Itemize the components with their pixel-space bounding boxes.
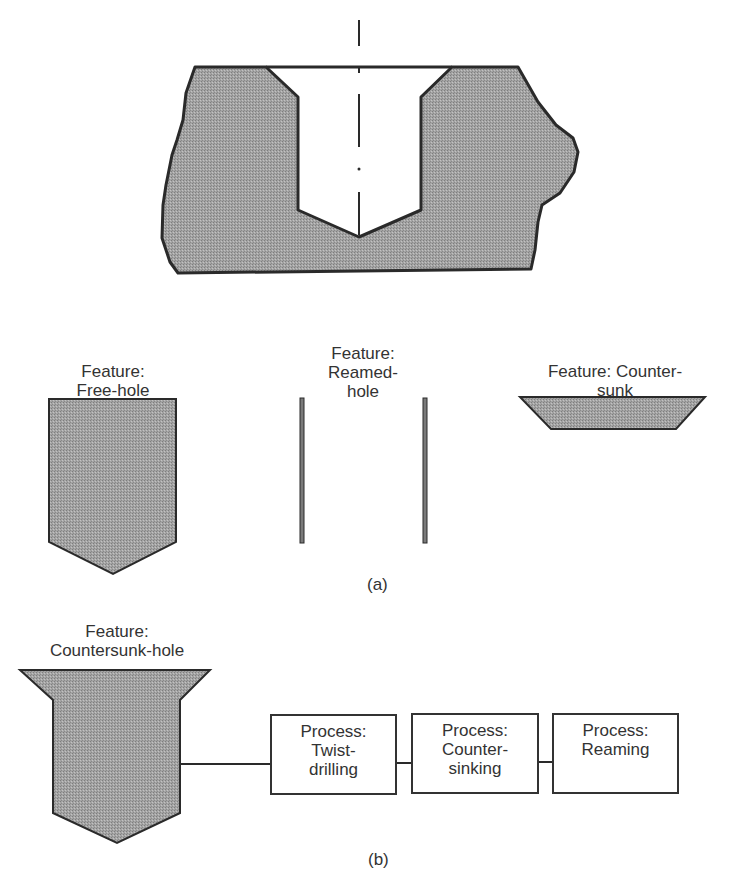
reamed-hole-wall-right — [423, 398, 427, 543]
countersunk-label: Feature: Counter- sunk — [520, 362, 710, 400]
reamed-hole-label: Feature: Reamed- hole — [290, 344, 436, 401]
countersunk-hole-label: Feature: Countersunk-hole — [20, 622, 214, 660]
process-box-twist-drilling: Process: Twist- drilling — [270, 714, 397, 795]
workpiece-section — [162, 20, 578, 273]
process-box-reaming: Process: Reaming — [552, 713, 679, 794]
reamed-hole-wall-left — [300, 398, 304, 543]
caption-b: (b) — [368, 850, 389, 870]
free-hole-label: Feature: Free-hole — [20, 362, 206, 400]
countersunk-shape — [520, 397, 705, 429]
countersunk-hole-shape — [20, 670, 210, 843]
caption-a: (a) — [367, 575, 388, 595]
process-box-countersinking: Process: Counter- sinking — [411, 713, 539, 794]
free-hole-shape — [49, 399, 176, 574]
